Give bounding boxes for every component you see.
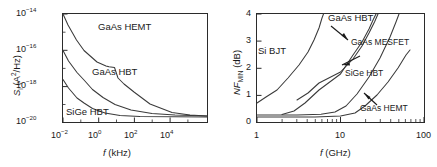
- right-ytick-0: 0: [246, 117, 251, 126]
- right-ytick-2: 2: [246, 63, 251, 72]
- right-x-axis-title: f (GHz): [320, 148, 351, 158]
- left-xtick-3: 102: [124, 131, 137, 140]
- right-xtick-100: 100: [416, 131, 431, 140]
- right-label-gaas-hbt: GaAs HBT: [328, 13, 373, 23]
- left-label-gaas-hemt: GaAs HEMT: [98, 22, 151, 32]
- left-xtick-4: 104: [160, 131, 173, 140]
- left-label-gaas-hbt: GaAs HBT: [92, 67, 137, 77]
- curve-sige-hbt: [257, 14, 399, 115]
- curve-gaas-hbt: [282, 14, 376, 115]
- left-ytick-1: 10−14: [16, 9, 36, 18]
- right-xtick-1: 1: [254, 131, 259, 140]
- right-label-si-bjt: Si BJT: [258, 46, 286, 56]
- left-x-ticks: [63, 118, 188, 123]
- left-y-axis-title: Si (A2/Hz): [12, 55, 22, 96]
- right-y-axis-title: NFMIN (dB): [232, 50, 242, 95]
- figure-container: 10−14 10−16 10−18 10−20 10−2 100 102 104…: [0, 0, 437, 167]
- right-x-ticks: [257, 117, 424, 123]
- left-x-axis-title: f (kHz): [103, 148, 131, 158]
- right-label-gaas-hemt: GaAs HEMT: [360, 104, 408, 113]
- left-ytick-2: 10−16: [16, 45, 36, 54]
- right-label-gaas-mesfet: GaAs MESFET: [351, 38, 409, 47]
- right-chart-panel: 4 3 2 1 0 1 10 100 NFMIN (dB) f (GHz) Si…: [220, 0, 437, 167]
- left-ytick-4: 10−20: [16, 117, 36, 126]
- right-ytick-4: 4: [246, 9, 251, 18]
- right-chart-svg: [220, 0, 437, 167]
- left-xtick-2: 100: [88, 131, 101, 140]
- left-label-sige-hbt: SiGe HBT: [66, 107, 109, 117]
- curve-gaas-mesfet: [297, 14, 378, 100]
- right-ytick-3: 3: [246, 36, 251, 45]
- right-label-sige-hbt: SiGe HBT: [345, 69, 383, 78]
- curve-si-bjt: [257, 14, 324, 103]
- right-y-ticks: [257, 14, 262, 123]
- arrow-to-gaas-hbt: [331, 26, 348, 40]
- right-xtick-10: 10: [335, 131, 345, 140]
- left-xtick-1: 10−2: [51, 131, 68, 140]
- right-ytick-1: 1: [246, 90, 251, 99]
- left-chart-panel: 10−14 10−16 10−18 10−20 10−2 100 102 104…: [0, 0, 220, 167]
